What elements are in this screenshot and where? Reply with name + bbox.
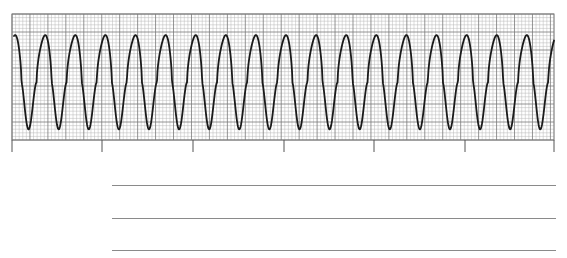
answer-line-1 [112, 185, 556, 186]
time-tick-marks [12, 140, 554, 152]
answer-line-3 [112, 250, 556, 251]
ecg-strip [0, 0, 567, 170]
answer-line-2 [112, 218, 556, 219]
